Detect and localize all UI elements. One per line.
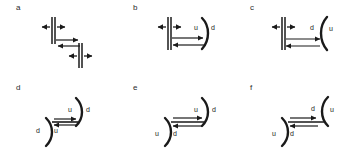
throw-label-e-d1: d — [212, 106, 216, 113]
throw-label-e-u2: u — [155, 130, 159, 137]
panel-f-canvas: d u u d — [234, 80, 350, 159]
throw-label-d-u1: u — [68, 106, 72, 113]
panel-d-canvas: u d d u — [0, 80, 116, 159]
throw-label-e-u1: u — [194, 106, 198, 113]
fault-left-b — [168, 17, 171, 50]
panel-c-canvas: d u — [234, 0, 350, 79]
throw-label-f-u2: u — [272, 130, 276, 137]
throw-label-c-u: u — [329, 25, 333, 32]
fault-lower-a — [79, 43, 82, 68]
panel-b-canvas: u d — [117, 0, 233, 79]
figure-root: a — [0, 0, 350, 159]
throw-label-d-u2: u — [54, 127, 58, 134]
throw-label-f-d2: d — [290, 130, 294, 137]
throw-label-b-d: d — [211, 24, 215, 31]
panel-d: d u d d — [0, 80, 116, 159]
panel-a-canvas — [0, 0, 116, 79]
fault-left-c — [282, 17, 285, 50]
throw-label-d-d2: d — [36, 127, 40, 134]
throw-label-b-u: u — [194, 24, 198, 31]
panel-e-canvas: u d u d — [117, 80, 233, 159]
panel-b: b — [117, 0, 233, 79]
fault-lower-arc-d — [46, 118, 52, 146]
shear-arrows-a — [56, 40, 80, 46]
fault-lower-arc-f — [282, 118, 288, 146]
panel-a: a — [0, 0, 116, 79]
shear-arrows-f — [288, 118, 324, 126]
shear-arrows-c — [286, 39, 320, 46]
throw-label-e-d2: d — [173, 130, 177, 137]
throw-label-f-d1: d — [311, 105, 315, 112]
panel-e: e u d u — [117, 80, 233, 159]
throw-label-c-d: d — [310, 24, 314, 31]
shear-arrows-d — [52, 119, 78, 125]
fault-lower-arc-e — [165, 118, 171, 146]
fault-upper-a — [52, 17, 55, 44]
panel-c: c — [234, 0, 350, 79]
fault-right-arc-c — [321, 17, 327, 50]
throw-label-f-u1: u — [330, 106, 334, 113]
panel-f: f d u u — [234, 80, 350, 159]
shear-arrows-b — [172, 38, 205, 45]
shear-arrows-e — [171, 118, 204, 126]
fault-right-arc-b — [202, 18, 208, 49]
throw-label-d-d1: d — [86, 106, 90, 113]
